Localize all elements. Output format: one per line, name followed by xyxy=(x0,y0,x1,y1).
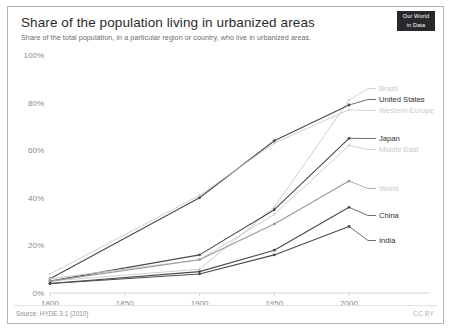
series-label-connector xyxy=(349,145,368,149)
series-label[interactable]: China xyxy=(379,211,400,220)
series-point[interactable] xyxy=(273,139,276,142)
footer-divider xyxy=(14,305,437,306)
series-point[interactable] xyxy=(198,254,201,257)
series-point[interactable] xyxy=(198,258,201,261)
series-point[interactable] xyxy=(198,196,201,199)
series-label-connector xyxy=(349,181,368,188)
x-axis-tick-label: 1950 xyxy=(265,299,283,308)
series-point[interactable] xyxy=(273,208,276,211)
y-axis-tick-label: 40% xyxy=(28,194,44,203)
series-point[interactable] xyxy=(273,249,276,252)
y-axis-tick-label: 100% xyxy=(24,51,44,60)
series-point[interactable] xyxy=(273,254,276,257)
series-point[interactable] xyxy=(49,273,51,275)
series-label[interactable]: India xyxy=(379,236,396,245)
series-label-connector xyxy=(349,100,368,106)
series-line[interactable] xyxy=(50,110,349,274)
series-point[interactable] xyxy=(273,142,275,144)
series-label[interactable]: World xyxy=(379,184,399,193)
series-label-connector xyxy=(349,89,368,101)
series-point[interactable] xyxy=(273,206,275,208)
license-note: CC BY xyxy=(413,310,434,317)
series-point[interactable] xyxy=(273,213,275,215)
series-label[interactable]: Western Europe xyxy=(379,106,434,115)
x-axis-tick-label: 2000 xyxy=(340,299,358,308)
x-axis-tick-label: 1900 xyxy=(191,299,209,308)
y-axis-tick-label: 20% xyxy=(28,241,44,250)
source-note: Source: HYDE 3.1 (2010) xyxy=(16,310,88,317)
chart-frame: Share of the population living in urbani… xyxy=(7,6,444,324)
series-label[interactable]: United States xyxy=(379,95,425,104)
y-axis-tick-label: 60% xyxy=(28,146,44,155)
line-chart-svg: 0%20%40%60%80%100%18001850190019502000Br… xyxy=(8,7,445,325)
series-label-connector xyxy=(349,110,368,111)
series-line[interactable] xyxy=(50,105,349,279)
y-axis-tick-label: 0% xyxy=(32,289,44,298)
series-point[interactable] xyxy=(198,268,200,270)
series-label[interactable]: Brazil xyxy=(379,84,398,93)
series-point[interactable] xyxy=(198,273,201,276)
x-axis-tick-label: 1800 xyxy=(41,299,59,308)
series-point[interactable] xyxy=(49,282,52,285)
series-point[interactable] xyxy=(273,223,276,226)
series-label-connector xyxy=(349,207,368,215)
series-point[interactable] xyxy=(198,194,200,196)
chart-plot-area: 0%20%40%60%80%100%18001850190019502000Br… xyxy=(8,7,445,325)
series-label[interactable]: Middle East xyxy=(379,145,420,154)
y-axis-tick-label: 80% xyxy=(28,99,44,108)
series-label[interactable]: Japan xyxy=(379,134,400,143)
series-point[interactable] xyxy=(49,278,51,280)
series-label-connector xyxy=(349,226,368,240)
x-axis-tick-label: 1850 xyxy=(116,299,134,308)
